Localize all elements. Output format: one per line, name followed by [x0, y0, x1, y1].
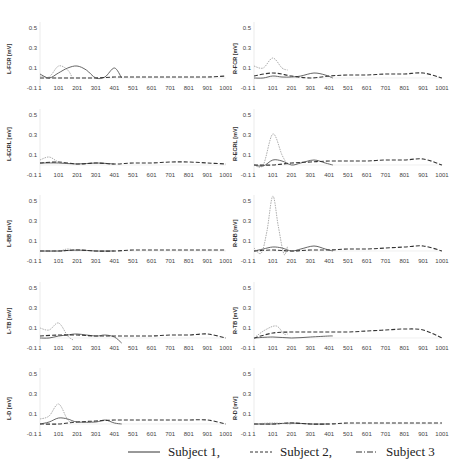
svg-text:201: 201 — [287, 85, 298, 91]
series-subject-3 — [40, 66, 72, 78]
svg-text:401: 401 — [324, 172, 335, 178]
svg-text:801: 801 — [184, 431, 195, 437]
svg-text:0.3: 0.3 — [243, 45, 252, 51]
y-axis-label: R-ECRL [mV] — [232, 126, 238, 160]
svg-text:-0.1: -0.1 — [27, 431, 38, 437]
svg-text:701: 701 — [165, 172, 176, 178]
y-axis-label: L-FCR [mV] — [6, 44, 12, 74]
y-axis-label: R-D [mV] — [232, 396, 238, 420]
svg-text:301: 301 — [91, 172, 102, 178]
svg-text:101: 101 — [54, 345, 65, 351]
svg-text:101: 101 — [54, 85, 65, 91]
svg-text:901: 901 — [418, 85, 429, 91]
panel-r-d: 0.50.30.1-0.1110120130140150160170180190… — [230, 354, 462, 442]
svg-text:101: 101 — [54, 258, 65, 264]
series-subject-3 — [254, 133, 288, 166]
panel-l-ecrl: 0.50.30.1-0.1110120130140150160170180190… — [0, 95, 232, 183]
svg-text:0.3: 0.3 — [243, 218, 252, 224]
svg-text:301: 301 — [91, 345, 102, 351]
svg-text:501: 501 — [128, 172, 139, 178]
svg-text:601: 601 — [147, 258, 158, 264]
svg-text:0.5: 0.5 — [243, 371, 252, 377]
svg-text:601: 601 — [147, 85, 158, 91]
svg-text:1001: 1001 — [435, 431, 449, 437]
svg-text:701: 701 — [381, 258, 392, 264]
svg-text:701: 701 — [381, 85, 392, 91]
svg-text:0.1: 0.1 — [243, 325, 252, 331]
svg-text:301: 301 — [305, 345, 316, 351]
svg-text:-0.1: -0.1 — [27, 345, 38, 351]
svg-text:401: 401 — [109, 345, 120, 351]
svg-text:601: 601 — [147, 345, 158, 351]
line-chart: 0.50.30.1-0.1110120130140150160170180190… — [230, 95, 462, 183]
legend-item-subject-1: Subject 1, — [128, 444, 220, 460]
svg-text:0.3: 0.3 — [29, 45, 38, 51]
svg-text:101: 101 — [54, 431, 65, 437]
svg-text:0.1: 0.1 — [29, 325, 38, 331]
svg-text:801: 801 — [399, 345, 410, 351]
series-subject-2 — [254, 158, 442, 164]
svg-text:101: 101 — [54, 172, 65, 178]
svg-text:801: 801 — [399, 85, 410, 91]
svg-text:501: 501 — [343, 258, 354, 264]
svg-text:0.1: 0.1 — [243, 238, 252, 244]
svg-text:501: 501 — [128, 258, 139, 264]
line-chart: 0.50.30.1-0.1110120130140150160170180190… — [0, 95, 232, 183]
svg-text:0.3: 0.3 — [243, 391, 252, 397]
legend-item-subject-2: Subject 2, — [250, 444, 332, 460]
svg-text:601: 601 — [362, 172, 373, 178]
svg-text:801: 801 — [184, 345, 195, 351]
svg-text:1: 1 — [38, 172, 42, 178]
svg-text:401: 401 — [324, 431, 335, 437]
line-chart: 0.50.30.1-0.1110120130140150160170180190… — [0, 181, 232, 269]
svg-text:0.5: 0.5 — [243, 285, 252, 291]
y-axis-label: L-TB [mV] — [6, 307, 12, 333]
line-chart: 0.50.30.1-0.1110120130140150160170180190… — [0, 354, 232, 442]
y-axis-label: R-BB [mV] — [232, 220, 238, 248]
svg-text:1: 1 — [252, 345, 256, 351]
line-chart: 0.50.30.1-0.1110120130140150160170180190… — [0, 8, 232, 96]
y-axis-label: L-BB [mV] — [6, 220, 12, 247]
svg-text:101: 101 — [268, 172, 279, 178]
panel-r-bb: 0.50.30.1-0.1110120130140150160170180190… — [230, 181, 462, 269]
svg-text:901: 901 — [202, 258, 213, 264]
svg-text:0.3: 0.3 — [243, 305, 252, 311]
svg-text:601: 601 — [147, 172, 158, 178]
svg-text:901: 901 — [418, 258, 429, 264]
svg-text:801: 801 — [184, 258, 195, 264]
svg-text:401: 401 — [324, 345, 335, 351]
svg-text:901: 901 — [418, 172, 429, 178]
svg-text:0.1: 0.1 — [29, 65, 38, 71]
dashdot-line-swatch-icon — [356, 449, 378, 455]
svg-text:0.5: 0.5 — [243, 198, 252, 204]
y-axis-label: L-ECRL [mV] — [6, 127, 12, 161]
svg-text:201: 201 — [72, 431, 83, 437]
svg-text:901: 901 — [418, 431, 429, 437]
svg-text:0.3: 0.3 — [29, 305, 38, 311]
svg-text:0.5: 0.5 — [29, 371, 38, 377]
svg-text:-0.1: -0.1 — [241, 258, 252, 264]
svg-text:201: 201 — [72, 345, 83, 351]
line-chart: 0.50.30.1-0.1110120130140150160170180190… — [230, 354, 462, 442]
svg-text:301: 301 — [305, 431, 316, 437]
legend: Subject 1, Subject 2, Subject 3 — [0, 440, 465, 464]
series-subject-2 — [40, 420, 226, 424]
legend-item-subject-3: Subject 3 — [356, 444, 435, 460]
svg-text:0.5: 0.5 — [29, 198, 38, 204]
solid-line-swatch-icon — [128, 449, 160, 455]
series-subject-3 — [254, 58, 288, 70]
svg-text:301: 301 — [305, 172, 316, 178]
svg-text:401: 401 — [109, 85, 120, 91]
svg-text:901: 901 — [202, 345, 213, 351]
svg-text:501: 501 — [343, 172, 354, 178]
svg-text:201: 201 — [72, 258, 83, 264]
svg-text:601: 601 — [362, 431, 373, 437]
svg-text:901: 901 — [202, 85, 213, 91]
line-chart: 0.50.30.1-0.1110120130140150160170180190… — [230, 8, 462, 96]
line-chart: 0.50.30.1-0.1110120130140150160170180190… — [230, 181, 462, 269]
svg-text:701: 701 — [165, 345, 176, 351]
svg-text:0.5: 0.5 — [243, 112, 252, 118]
svg-text:901: 901 — [202, 172, 213, 178]
svg-text:0.3: 0.3 — [29, 132, 38, 138]
svg-text:-0.1: -0.1 — [27, 258, 38, 264]
